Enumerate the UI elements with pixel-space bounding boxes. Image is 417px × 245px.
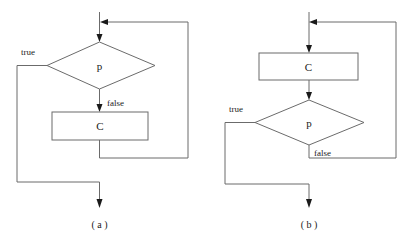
diagram-a-process-label: C — [96, 120, 103, 132]
diagram-b-entry-arrowhead — [306, 45, 312, 53]
diagram-b-decision-arrowhead — [306, 92, 312, 100]
diagram-b-true-label: true — [229, 104, 243, 114]
diagram-a-true-label: true — [21, 47, 35, 57]
diagram-b-feedback-arrowhead — [309, 19, 317, 25]
diagram-a-caption: ( a ) — [91, 219, 107, 231]
flowchart-canvas: p true false C ( a ) — [0, 0, 417, 245]
diagram-b: C p true false ( b ) — [225, 12, 396, 231]
diagram-b-decision-label: p — [306, 117, 312, 129]
diagram-a-false-branch-arrowhead — [97, 104, 103, 112]
diagram-a-false-label: false — [107, 98, 124, 108]
diagram-a-decision-label: p — [97, 60, 103, 72]
diagram-a-entry-arrowhead — [97, 34, 103, 42]
diagram-a: p true false C ( a ) — [17, 12, 188, 231]
diagram-b-false-label: false — [314, 148, 331, 158]
flowchart-figure: p true false C ( a ) — [0, 0, 417, 245]
diagram-b-process-label: C — [305, 61, 312, 73]
diagram-a-feedback-arrowhead — [100, 19, 108, 25]
diagram-b-caption: ( b ) — [301, 219, 318, 231]
diagram-a-loopback-line — [100, 140, 189, 158]
diagram-b-exit-arrowhead — [306, 199, 312, 208]
diagram-a-exit-arrowhead — [97, 199, 103, 208]
